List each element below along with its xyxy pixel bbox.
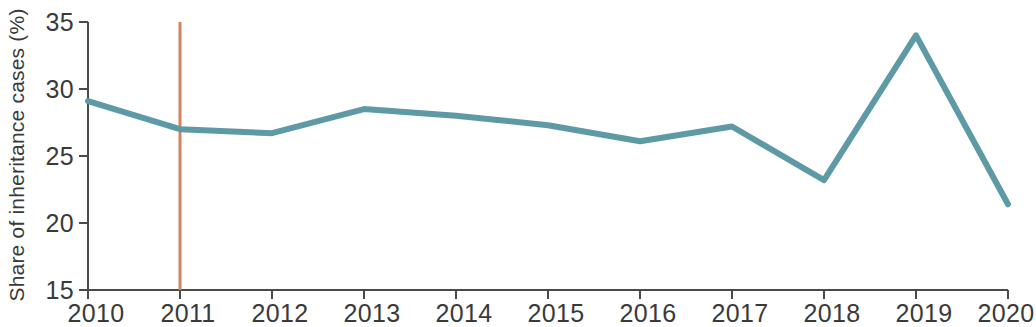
x-tick-marks	[88, 290, 1008, 299]
x-tick-label-2014: 2014	[436, 299, 493, 327]
chart-canvas: Share of inheritance cases (%) 35 30 25 …	[0, 0, 1036, 327]
series-line-share-of-inheritance-cases	[88, 35, 1008, 204]
x-tick-labels: 2010 2011 2012 2013 2014 2015 2016 2017 …	[68, 299, 1035, 327]
line-chart: Share of inheritance cases (%) 35 30 25 …	[0, 0, 1036, 327]
y-tick-label-20: 20	[46, 209, 74, 237]
x-tick-label-2015: 2015	[528, 299, 585, 327]
x-tick-label-2018: 2018	[804, 299, 861, 327]
y-tick-label-30: 30	[46, 75, 74, 103]
x-tick-label-2016: 2016	[620, 299, 677, 327]
x-tick-label-2020: 2020	[978, 299, 1035, 327]
y-tick-label-25: 25	[46, 142, 74, 170]
x-tick-label-2017: 2017	[712, 299, 769, 327]
x-tick-label-2012: 2012	[252, 299, 309, 327]
y-axis-label: Share of inheritance cases (%)	[5, 8, 28, 301]
y-tick-label-35: 35	[46, 8, 74, 36]
x-tick-label-2013: 2013	[344, 299, 401, 327]
x-tick-label-2011: 2011	[161, 299, 216, 327]
x-tick-label-2010: 2010	[68, 299, 125, 327]
x-tick-label-2019: 2019	[896, 299, 953, 327]
